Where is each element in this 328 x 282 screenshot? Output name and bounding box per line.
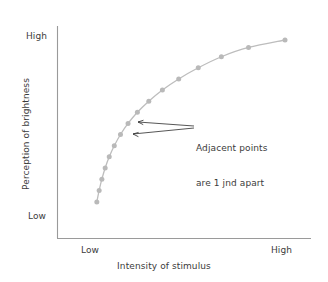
leader-arrow-lower: [133, 132, 139, 136]
y-axis-tick-high: High: [26, 31, 47, 41]
x-axis-tick-low: Low: [81, 245, 99, 255]
annotation-jnd: Adjacent points are 1 jnd apart: [196, 120, 267, 212]
data-point: [107, 154, 112, 159]
data-point: [99, 177, 104, 182]
annotation-line-2: are 1 jnd apart: [196, 178, 267, 190]
data-point: [94, 199, 99, 204]
data-point: [246, 45, 251, 50]
y-axis-title: Perception of brightness: [21, 64, 31, 204]
data-point: [103, 165, 108, 170]
y-axis-tick-low: Low: [28, 211, 46, 221]
data-point: [126, 121, 131, 126]
leader-line-lower: [133, 128, 194, 134]
data-point: [135, 110, 140, 115]
data-point: [283, 38, 288, 43]
data-point: [146, 99, 151, 104]
data-point: [97, 188, 102, 193]
data-point: [176, 76, 181, 81]
data-point: [160, 88, 165, 93]
leader-line-upper: [138, 122, 194, 126]
data-point: [219, 54, 224, 59]
data-point: [196, 65, 201, 70]
annotation-leader-lines: [133, 120, 194, 137]
annotation-line-1: Adjacent points: [196, 143, 267, 155]
plot-area: [0, 0, 328, 282]
x-axis-title: Intensity of stimulus: [0, 261, 328, 271]
data-point: [112, 143, 117, 148]
chart-container: High Low Low High Intensity of stimulus …: [0, 0, 328, 282]
x-axis-tick-high: High: [271, 245, 292, 255]
data-point: [118, 132, 123, 137]
